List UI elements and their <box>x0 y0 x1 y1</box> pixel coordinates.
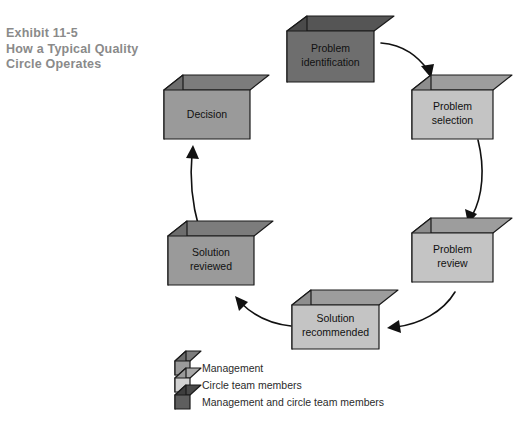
node-problem-identification-label-line-2: identification <box>301 56 360 68</box>
node-solution-reviewed-label-line-1: Solution <box>192 246 230 258</box>
node-problem-selection[interactable]: Problem selection <box>412 75 512 139</box>
edge-problem-identification-to-problem-selection <box>381 43 434 78</box>
edge-problem-selection-to-problem-review <box>465 140 482 224</box>
legend: Management Circle team members Managemen… <box>175 351 384 409</box>
edge-solution-reviewed-to-decision <box>186 145 199 228</box>
node-problem-review[interactable]: Problem review <box>412 218 512 282</box>
node-problem-identification[interactable]: Problem identification <box>287 16 394 82</box>
edge-problem-review-to-solution-recommended <box>387 292 455 333</box>
node-problem-identification-label-line-1: Problem <box>311 42 350 54</box>
node-problem-review-label-line-1: Problem <box>433 243 472 255</box>
edge-solution-recommended-to-solution-reviewed <box>235 296 291 326</box>
node-problem-selection-label-line-1: Problem <box>433 100 472 112</box>
node-solution-reviewed[interactable]: Solution reviewed <box>168 221 273 285</box>
node-decision-label-line-1: Decision <box>187 108 227 120</box>
node-problem-review-label-line-2: review <box>437 257 468 269</box>
node-problem-selection-label-line-2: selection <box>432 114 474 126</box>
legend-label-management: Management <box>202 362 263 374</box>
cycle-diagram-canvas: Problem identification Problem selection… <box>0 0 526 429</box>
legend-label-circle-team-members: Circle team members <box>202 379 302 391</box>
exhibit-figure: Exhibit 11-5 How a Typical Quality Circl… <box>0 0 526 429</box>
node-solution-recommended[interactable]: Solution recommended <box>292 290 398 349</box>
node-solution-recommended-label-line-1: Solution <box>317 312 355 324</box>
legend-label-management-and-circle-team-members: Management and circle team members <box>202 396 384 408</box>
node-solution-recommended-label-line-2: recommended <box>302 326 369 338</box>
node-solution-reviewed-label-line-2: reviewed <box>190 260 232 272</box>
node-decision[interactable]: Decision <box>164 75 269 139</box>
legend-icon-both-face <box>175 395 190 409</box>
